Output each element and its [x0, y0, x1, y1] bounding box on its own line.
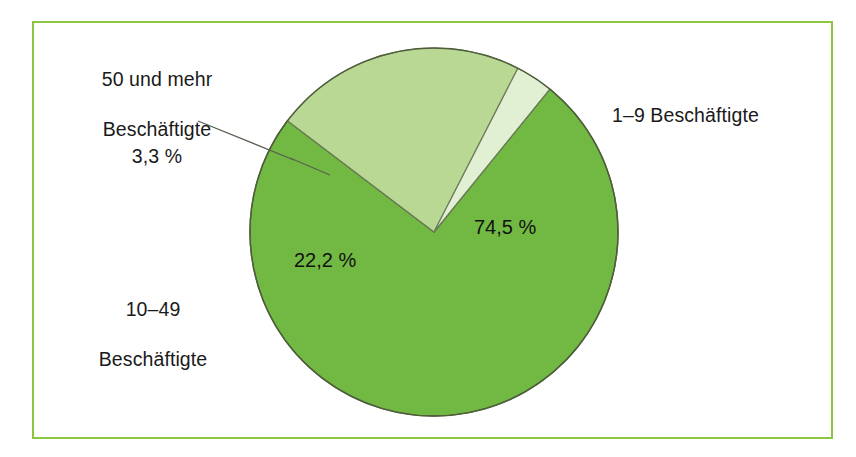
slice-value-1-9: 74,5 %: [474, 216, 536, 239]
label-50-und-mehr-line1: 50 und mehr: [102, 68, 213, 90]
label-1-9-beschaeftigte: 1–9 Beschäftigte: [612, 78, 827, 128]
slice-value-10-49: 22,2 %: [294, 249, 356, 272]
label-10-49-line1: 10–49: [126, 298, 181, 320]
label-10-49-line2: Beschäftigte: [99, 348, 208, 370]
chart-figure: 50 und mehr Beschäftigte 3,3 % 1–9 Besch…: [0, 0, 856, 457]
label-50-und-mehr-line2: Beschäftigte: [103, 118, 212, 140]
label-50-und-mehr-beschaeftigte: 50 und mehr Beschäftigte 3,3 %: [62, 42, 252, 194]
label-1-9-text: 1–9 Beschäftigte: [612, 104, 759, 126]
label-10-49-beschaeftigte: 10–49 Beschäftigte: [58, 272, 248, 372]
label-50-und-mehr-value: 3,3 %: [62, 144, 252, 169]
